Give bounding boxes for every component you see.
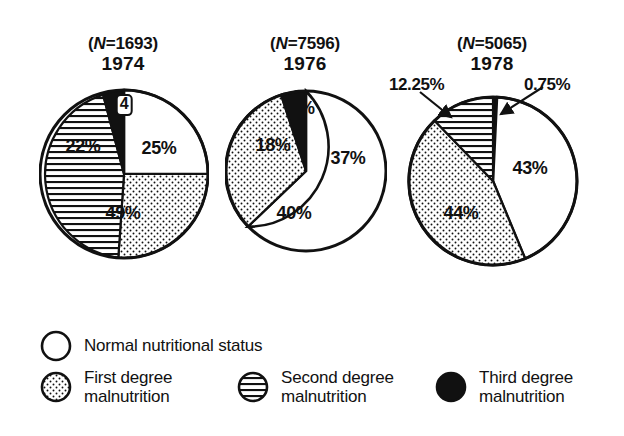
legend-label-second: Second degree malnutrition bbox=[281, 368, 394, 406]
pie-1976-sample-size: (N=7596) bbox=[270, 34, 340, 53]
pie-1978-header: (N=5065) 1978 bbox=[457, 34, 527, 74]
pie-1976-label-normal: 37% bbox=[330, 148, 365, 169]
legend-label-first: First degree malnutrition bbox=[84, 368, 172, 406]
pie-1974-label-second: 22% bbox=[65, 136, 100, 157]
pie-1974-label-normal: 25% bbox=[141, 138, 176, 159]
n-symbol: N bbox=[463, 34, 475, 53]
callout-arrow-third bbox=[501, 87, 543, 114]
pie-1976-label-second: 18% bbox=[255, 135, 290, 156]
pie-1978-callout-arrows bbox=[380, 70, 600, 140]
pie-1974-sample-size: (N=1693) bbox=[88, 34, 158, 53]
callout-arrow-second bbox=[420, 92, 451, 117]
pie-1974-label-third: 4 bbox=[116, 94, 133, 116]
pie-1978-label-normal: 43% bbox=[512, 158, 547, 179]
legend-label-normal-line1: Normal nutritional status bbox=[84, 336, 262, 355]
legend-label-normal: Normal nutritional status bbox=[84, 336, 262, 355]
legend-swatch-third bbox=[435, 371, 467, 403]
pie-1976-label-third: 5% bbox=[289, 98, 314, 119]
pie-1974-label-first: 49% bbox=[105, 203, 140, 224]
pie-1974-header: (N=1693) 1974 bbox=[88, 34, 158, 74]
pie-1976-header: (N=7596) 1976 bbox=[270, 34, 340, 74]
pie-1978-label-first: 44% bbox=[443, 203, 478, 224]
legend-swatch-normal bbox=[40, 330, 72, 362]
legend-label-third-line2: malnutrition bbox=[479, 387, 573, 406]
pie-1978-sample-size: (N=5065) bbox=[457, 34, 527, 53]
legend-label-third: Third degree malnutrition bbox=[479, 368, 573, 406]
legend-label-first-line1: First degree bbox=[84, 368, 172, 387]
pie-1974-year: 1974 bbox=[88, 53, 158, 74]
legend-label-first-line2: malnutrition bbox=[84, 387, 172, 406]
n-symbol: N bbox=[276, 34, 288, 53]
legend-swatch-first bbox=[40, 371, 72, 403]
n-symbol: N bbox=[94, 34, 106, 53]
pie-1976-year: 1976 bbox=[270, 53, 340, 74]
legend-label-third-line1: Third degree bbox=[479, 368, 573, 387]
pie-chart-figure: (N=1693) 1974 25% 49% 22% 4 (N=7596) bbox=[0, 0, 624, 436]
pie-1976-label-first: 40% bbox=[276, 203, 311, 224]
legend-label-second-line1: Second degree bbox=[281, 368, 394, 387]
legend-swatch-second bbox=[237, 371, 269, 403]
legend-label-second-line2: malnutrition bbox=[281, 387, 394, 406]
